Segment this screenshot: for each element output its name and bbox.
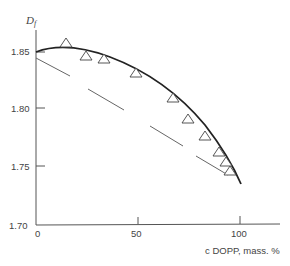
y-tick-label: 1.70 [9,220,28,231]
axes [36,30,280,225]
y-tick-label: 1.80 [11,103,30,114]
fitted-curve [36,48,241,184]
triangle-marker [199,131,211,140]
triangle-marker [130,68,142,77]
x-tick-label: 0 [35,228,40,239]
y-tick-label: 1.85 [11,46,30,57]
y-axis-title: Df [25,14,38,28]
x-axis-line [36,224,280,225]
x-axis-title: c DOPP, mass. % [205,245,280,256]
triangle-marker [80,51,92,60]
x-tick-label: 50 [131,228,142,239]
triangle-marker [182,114,194,123]
triangle-marker [60,38,72,47]
triangle-marker [98,54,110,63]
x-tick-label: 100 [231,228,247,239]
chart: 1.85 1.80 1.75 1.70 0 50 100 Df c DOPP, … [0,0,290,266]
data-points [60,38,236,175]
y-tick-label: 1.75 [11,161,30,172]
